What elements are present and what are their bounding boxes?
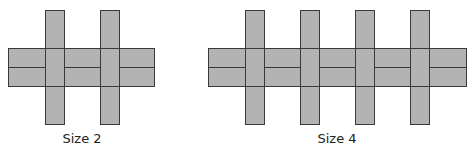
vertical-strip: [356, 11, 375, 125]
figure-label-size-4: Size 4: [317, 131, 356, 146]
woven-strips-diagram: [0, 0, 473, 150]
vertical-strip: [301, 11, 320, 125]
vertical-strip: [246, 11, 265, 125]
vertical-strip: [101, 11, 120, 125]
figure-label-size-2: Size 2: [62, 131, 101, 146]
vertical-strip: [411, 11, 430, 125]
vertical-strip: [46, 11, 65, 125]
